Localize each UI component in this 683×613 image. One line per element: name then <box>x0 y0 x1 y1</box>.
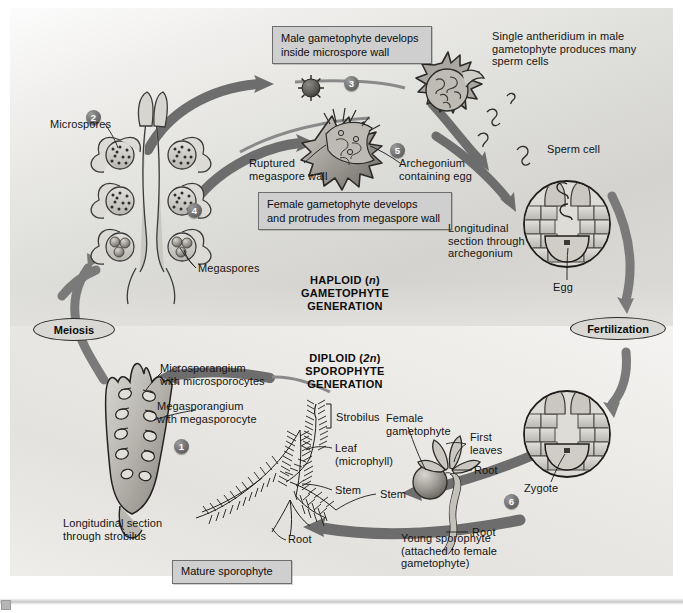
label-megaspores: Megaspores <box>198 262 260 275</box>
label-microspores: Microspores <box>50 118 111 131</box>
label-female-gametophyte: Female gametophyte <box>386 412 451 437</box>
label-young-sporophyte: Young sporophyte (attached to female gam… <box>401 532 497 570</box>
label-first-leaves: First leaves <box>470 431 502 456</box>
step-badge-4: 4 <box>187 203 202 218</box>
bottom-divider <box>0 598 683 605</box>
fertilization-label: Fertilization <box>570 317 666 340</box>
callout-female-gametophyte: Female gametophyte develops and protrude… <box>258 192 452 230</box>
label-stem-mature: Stem <box>380 488 406 501</box>
label-longitudinal-strobilus: Longitudinal section through strobilus <box>63 517 162 542</box>
haploid-generation-caption: HAPLOID (n) GAMETOPHYTE GENERATION <box>265 274 425 313</box>
life-cycle-figure: HAPLOID (n) GAMETOPHYTE GENERATION DIPLO… <box>0 0 683 613</box>
callout-mature-sporophyte: Mature sporophyte <box>172 560 292 584</box>
label-megasporangium: Megasporangium with megasporocyte <box>157 400 257 425</box>
label-stem-young-sporophyte: Root <box>474 464 498 477</box>
step-badge-5: 5 <box>390 143 405 158</box>
diploid-line-1: DIPLOID (2n) <box>309 352 380 364</box>
step-badge-6: 6 <box>504 494 519 509</box>
label-leaf-microphyll: Leaf (microphyll) <box>335 442 393 467</box>
callout-male-gametophyte: Male gametophyte develops inside microsp… <box>272 26 432 64</box>
label-stem-sporophyte: Stem <box>335 484 361 497</box>
label-longitudinal-archegonium: Longitudinal section through archegonium <box>448 222 525 260</box>
diploid-generation-caption: DIPLOID (2n) SPOROPHYTE GENERATION <box>265 352 425 391</box>
haploid-line-1: HAPLOID (n) <box>310 274 380 286</box>
label-strobilus: Strobilus <box>336 411 380 424</box>
haploid-line-3: GENERATION <box>307 300 383 312</box>
label-sperm-cell: Sperm cell <box>547 143 600 156</box>
label-zygote: Zygote <box>524 482 558 495</box>
step-badge-3: 3 <box>344 76 359 91</box>
step-badge-1: 1 <box>174 439 189 454</box>
label-ruptured-megaspore-wall: Ruptured megaspore wall <box>249 157 327 182</box>
scrollbar-knob[interactable] <box>1 600 11 610</box>
diploid-line-3: GENERATION <box>307 378 383 390</box>
label-archegonium-egg: Archegonium containing egg <box>399 157 472 182</box>
meiosis-label: Meiosis <box>33 318 115 341</box>
label-microsporangium: Microsporangium with microsporocytes <box>160 362 265 387</box>
label-root-mature: Root <box>288 533 312 546</box>
diploid-line-2: SPOROPHYTE <box>305 365 384 377</box>
label-egg: Egg <box>553 281 573 294</box>
label-antheridium: Single antheridium in male gametophyte p… <box>492 30 636 68</box>
haploid-line-2: GAMETOPHYTE <box>301 287 389 299</box>
